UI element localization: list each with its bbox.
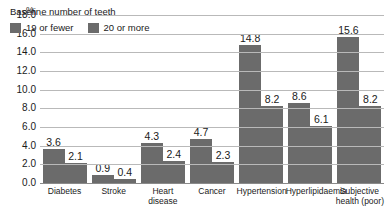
y-axis-tick-label: 4.0 bbox=[22, 141, 36, 151]
x-axis-labels: DiabetesStrokeHeart diseaseCancerHyperte… bbox=[40, 186, 384, 222]
legend-title: Baseline number of teeth bbox=[10, 6, 220, 18]
x-axis-label: Cancer bbox=[187, 186, 236, 196]
bar-value-label: 8.6 bbox=[284, 91, 314, 102]
y-axis-tick-label: 14.0 bbox=[17, 47, 36, 57]
bar-groups: 3.62.10.90.44.32.44.72.314.88.28.66.115.… bbox=[40, 15, 384, 183]
bar-value-label: 2.1 bbox=[61, 151, 91, 162]
plot-area: 3.62.10.90.44.32.44.72.314.88.28.66.115.… bbox=[40, 15, 384, 183]
x-axis-label-line: Cancer bbox=[198, 186, 225, 196]
y-axis: 18.016.014.012.010.08.06.04.02.00.0 bbox=[0, 15, 38, 183]
gridline bbox=[40, 108, 384, 109]
bar-group: 14.88.2 bbox=[237, 15, 286, 183]
gridline bbox=[40, 164, 384, 165]
bar-value-label: 2.4 bbox=[159, 149, 189, 160]
x-axis-label-line: Hypertension bbox=[237, 186, 287, 196]
bar-group: 15.68.2 bbox=[335, 15, 384, 183]
x-axis-label: Heart disease bbox=[138, 186, 187, 206]
bar-group: 3.62.1 bbox=[40, 15, 89, 183]
gridline bbox=[40, 34, 384, 35]
bar-chart: % 18.016.014.012.010.08.06.04.02.00.0 3.… bbox=[0, 0, 386, 224]
bar-group: 4.32.4 bbox=[138, 15, 187, 183]
x-axis-label: Subjectivehealth (poor) bbox=[335, 186, 384, 206]
legend-swatch-icon bbox=[10, 23, 21, 33]
y-axis-tick-label: 8.0 bbox=[22, 103, 36, 113]
bar-value-label: 4.3 bbox=[137, 131, 167, 142]
bar-group: 4.72.3 bbox=[187, 15, 236, 183]
x-axis-label-line: Diabetes bbox=[48, 186, 82, 196]
x-axis-label-line: Stroke bbox=[101, 186, 126, 196]
bar bbox=[310, 126, 332, 183]
y-axis-tick-label: 2.0 bbox=[22, 159, 36, 169]
y-axis-tick-label: 0.0 bbox=[22, 178, 36, 188]
legend-swatch-icon bbox=[88, 23, 99, 33]
legend-item-19-or-fewer: 19 or fewer bbox=[10, 22, 74, 33]
bar-value-label: 15.6 bbox=[333, 25, 363, 36]
y-axis-tick-label: 6.0 bbox=[22, 122, 36, 132]
bar-group: 0.90.4 bbox=[89, 15, 138, 183]
legend-item-20-or-more: 20 or more bbox=[88, 22, 150, 33]
x-axis-label: Hypertension bbox=[237, 186, 286, 196]
gridline bbox=[40, 146, 384, 147]
bar-value-label: 8.2 bbox=[257, 94, 287, 105]
bar bbox=[337, 37, 359, 183]
x-axis-label-line: Heart disease bbox=[148, 186, 177, 206]
gridline bbox=[40, 71, 384, 72]
bar-value-label: 4.7 bbox=[186, 127, 216, 138]
legend-items: 19 or fewer 20 or more bbox=[10, 22, 220, 33]
legend-label: 20 or more bbox=[104, 22, 150, 33]
gridline bbox=[40, 90, 384, 91]
bar bbox=[239, 45, 261, 183]
x-axis-label-line: Subjective bbox=[340, 186, 379, 196]
x-axis-label-line: health (poor) bbox=[335, 196, 384, 206]
bar-value-label: 2.3 bbox=[208, 150, 238, 161]
bar-value-label: 8.2 bbox=[355, 94, 385, 105]
x-axis-label: Hyperlipidaemia bbox=[286, 186, 335, 196]
bar-group: 8.66.1 bbox=[286, 15, 335, 183]
x-axis-label: Diabetes bbox=[40, 186, 89, 196]
legend-label: 19 or fewer bbox=[26, 22, 74, 33]
bar-value-label: 3.6 bbox=[39, 137, 69, 148]
bar bbox=[65, 163, 87, 183]
bar-value-label: 0.4 bbox=[110, 167, 140, 178]
axis-baseline bbox=[40, 183, 384, 184]
x-axis-label: Stroke bbox=[89, 186, 138, 196]
legend: Baseline number of teeth 19 or fewer 20 … bbox=[10, 6, 220, 33]
y-axis-tick-label: 12.0 bbox=[17, 66, 36, 76]
y-axis-tick-label: 10.0 bbox=[17, 85, 36, 95]
gridline bbox=[40, 52, 384, 53]
gridline bbox=[40, 127, 384, 128]
bar-value-label: 6.1 bbox=[306, 114, 336, 125]
